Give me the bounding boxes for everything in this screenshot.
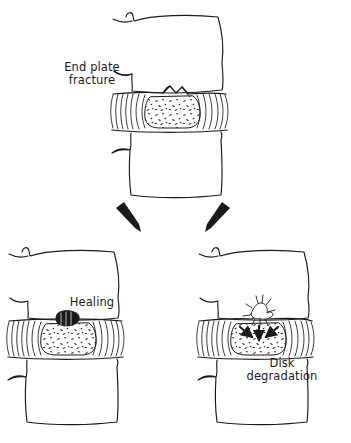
label-end-plate-fracture: End plate fracture (44, 61, 140, 86)
label-healing: Healing (44, 296, 140, 309)
end-plate-inferior (112, 130, 227, 132)
disk-degradation-panel (197, 248, 314, 425)
annulus-fibrosus-right (197, 94, 228, 129)
vertebral-body-upper (9, 248, 119, 321)
arrow-to-degradation (205, 202, 230, 232)
flow-arrows (116, 202, 230, 232)
annulus-fibrosus-left (197, 321, 231, 356)
vertebral-body-lower (112, 132, 222, 198)
nucleus-pulposus (41, 323, 96, 355)
degradation-starburst (243, 295, 275, 326)
annulus-fibrosus-right (93, 321, 124, 356)
vertebral-body-lower (8, 359, 118, 425)
arrow-to-healing (116, 202, 141, 232)
nucleus-pulposus (145, 96, 200, 128)
end-plate-inferior (8, 357, 123, 359)
end-plate-fracture-panel (111, 13, 228, 198)
healing-panel (7, 248, 124, 425)
annulus-fibrosus-right (283, 321, 314, 356)
annulus-fibrosus-left (7, 321, 41, 356)
healing-callus (56, 311, 79, 327)
annulus-fibrosus-left (111, 94, 145, 129)
label-disk-degradation: Disk degradation (232, 357, 332, 382)
